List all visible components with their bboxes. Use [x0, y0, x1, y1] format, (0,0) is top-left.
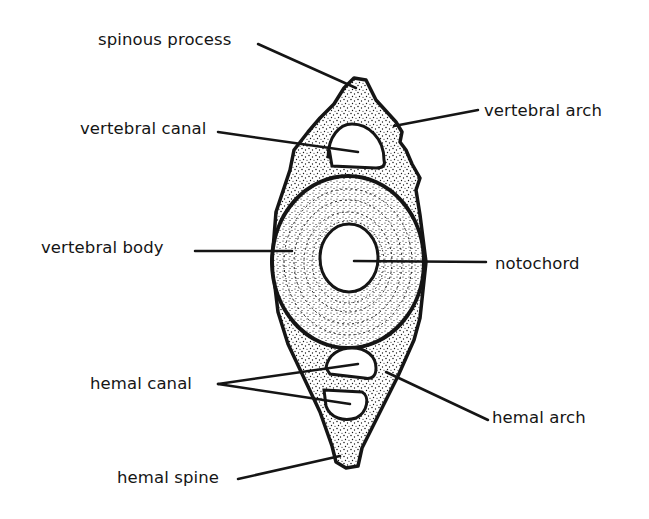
leader-vertebral-arch — [394, 110, 478, 126]
label-hemal-arch: hemal arch — [492, 410, 586, 427]
label-vertebral-body: vertebral body — [41, 240, 164, 257]
label-hemal-spine: hemal spine — [117, 470, 219, 487]
label-hemal-canal: hemal canal — [90, 376, 192, 393]
label-vertebral-canal: vertebral canal — [80, 121, 206, 138]
leader-hemal-arch — [386, 372, 488, 420]
notochord-shape — [320, 224, 378, 292]
leader-spinous-process — [258, 44, 356, 88]
leader-notochord — [354, 261, 486, 262]
label-spinous-process: spinous process — [98, 32, 231, 49]
hemal-canal-upper-shape — [326, 348, 376, 379]
hemal-canal-lower-shape — [324, 390, 367, 420]
leader-hemal-spine — [238, 456, 340, 479]
diagram-canvas: spinous process vertebral arch vertebral… — [0, 0, 649, 519]
label-notochord: notochord — [495, 256, 580, 273]
label-vertebral-arch: vertebral arch — [484, 103, 602, 120]
